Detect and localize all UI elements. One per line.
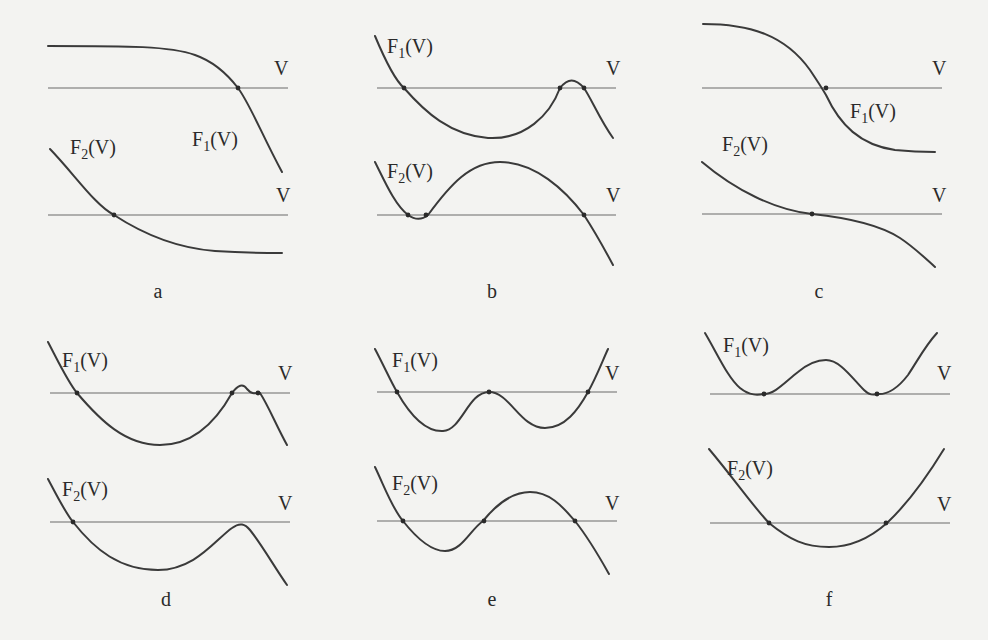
f2-label: F2(V) <box>722 133 768 159</box>
v-label: V <box>605 492 620 514</box>
f1-label: F1(V) <box>62 349 108 375</box>
panel-e-top: V F1(V) <box>375 349 620 431</box>
intersection-dot <box>582 86 587 91</box>
v-label: V <box>605 362 620 384</box>
panel-d-top: V F1(V) <box>48 342 293 445</box>
panel-e-bottom: V F2(V) <box>375 467 620 574</box>
intersection-dot <box>401 519 406 524</box>
f1-label: F1(V) <box>850 100 896 126</box>
intersection-dot <box>558 86 563 91</box>
v-label: V <box>276 184 291 206</box>
intersection-dot <box>573 519 578 524</box>
panel-a-bottom: V F2(V) <box>48 136 291 253</box>
intersection-dot <box>586 390 591 395</box>
v-label: V <box>278 492 293 514</box>
panel-caption: f <box>826 588 833 610</box>
panel-f: V F1(V) V F2(V) f <box>705 333 952 610</box>
f2-label: F2(V) <box>62 478 108 504</box>
f2-label: F2(V) <box>392 472 438 498</box>
panel-f-top: V F1(V) <box>705 333 952 396</box>
panel-c-top: V F1(V) <box>702 24 947 152</box>
intersection-dot <box>582 213 587 218</box>
f1-label: F1(V) <box>723 334 769 360</box>
f1-label: F1(V) <box>392 349 438 375</box>
v-label: V <box>932 57 947 79</box>
v-label: V <box>274 57 289 79</box>
f1-curve <box>705 333 937 395</box>
intersection-dot <box>824 86 829 91</box>
panel-c-bottom: V F2(V) <box>702 133 947 267</box>
intersection-dot <box>71 520 76 525</box>
intersection-dot <box>112 213 117 218</box>
v-label: V <box>932 184 947 206</box>
f1-label: F1(V) <box>387 35 433 61</box>
panel-e: V F1(V) V F2(V) e <box>375 349 620 610</box>
intersection-dot <box>482 519 487 524</box>
v-label: V <box>278 362 293 384</box>
f2-label: F2(V) <box>70 136 116 162</box>
v-label: V <box>606 57 621 79</box>
intersection-dot <box>75 391 80 396</box>
intersection-dot <box>487 390 492 395</box>
intersection-dot <box>230 391 235 396</box>
f1-label: F1(V) <box>192 128 238 154</box>
panel-caption: b <box>487 280 497 302</box>
intersection-dot <box>236 86 241 91</box>
f2-label: F2(V) <box>387 160 433 186</box>
panel-a: V F1(V) V F2(V) a <box>48 46 291 302</box>
panel-d-bottom: V F2(V) <box>48 478 293 585</box>
v-label: V <box>937 362 952 384</box>
panel-b-bottom: V F2(V) <box>375 160 621 265</box>
v-label: V <box>937 493 952 515</box>
intersection-dot <box>884 521 889 526</box>
v-label: V <box>606 184 621 206</box>
panel-caption: a <box>154 280 163 302</box>
panel-d: V F1(V) V F2(V) d <box>48 342 293 610</box>
panel-b-top: V F1(V) <box>375 35 621 138</box>
f2-curve <box>50 149 282 253</box>
tangent-dot <box>762 392 767 397</box>
panel-b: V F1(V) V F2(V) b <box>375 35 621 302</box>
diagram-figure: V F1(V) V F2(V) a V F1(V) V <box>0 0 988 640</box>
panel-c: V F1(V) V F2(V) c <box>702 24 947 302</box>
intersection-dot <box>424 213 429 218</box>
intersection-dot <box>395 390 400 395</box>
tangent-dot <box>875 392 880 397</box>
intersection-dot <box>810 212 815 217</box>
intersection-dot <box>406 213 411 218</box>
panel-f-bottom: V F2(V) <box>709 449 952 547</box>
intersection-dot <box>767 521 772 526</box>
intersection-dot <box>402 86 407 91</box>
panel-caption: c <box>815 280 824 302</box>
panel-caption: d <box>161 588 171 610</box>
intersection-dot <box>256 391 261 396</box>
panel-caption: e <box>488 588 497 610</box>
